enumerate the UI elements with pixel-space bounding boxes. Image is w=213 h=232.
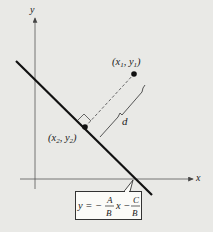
equation-lhs: y = − bbox=[77, 200, 102, 211]
equation-mid: x − bbox=[115, 200, 130, 211]
frac1-denominator: B bbox=[106, 208, 112, 218]
equation-overlay: y = − A B x − C B bbox=[0, 0, 213, 232]
frac2-denominator: B bbox=[132, 208, 138, 218]
frac2-numerator: C bbox=[133, 195, 140, 205]
frac1-numerator: A bbox=[106, 195, 113, 205]
